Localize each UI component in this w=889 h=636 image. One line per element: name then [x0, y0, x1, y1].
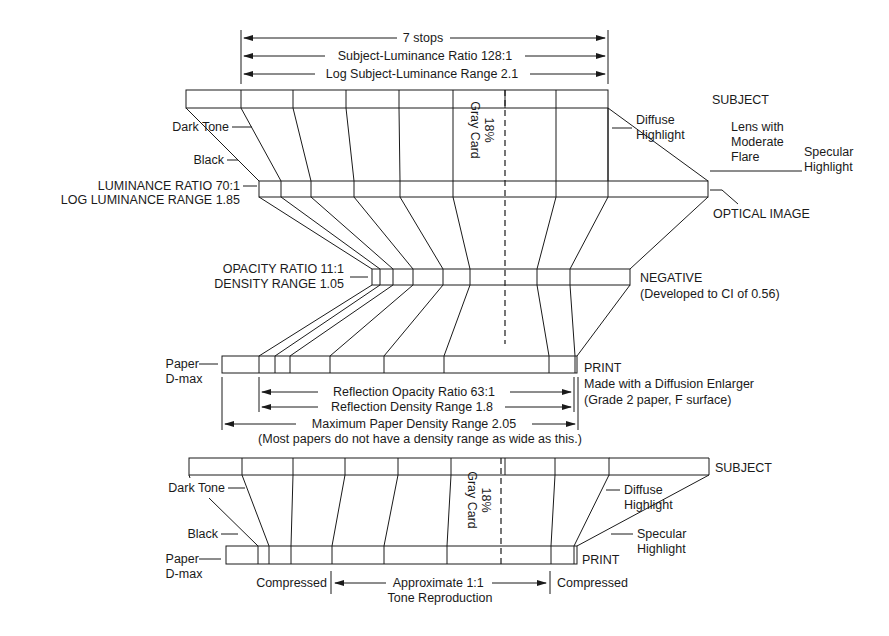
compressed-right-label: Compressed	[557, 576, 628, 590]
bottom-black-label: Black	[187, 527, 218, 541]
black-label: Black	[193, 153, 224, 167]
subject-to-optical-lines	[186, 108, 608, 181]
optical-image-bar	[259, 181, 708, 197]
bottom-gray-card-pct: 18%	[479, 487, 493, 512]
optical-image-label: OPTICAL IMAGE	[713, 207, 810, 221]
tone-reproduction-label: Approximate 1:1 Tone Reproduction	[388, 576, 493, 605]
opacity-ratio-label: OPACITY RATIO 11:1	[223, 262, 344, 276]
max-paper-density-label: Maximum Paper Density Range 2.05	[312, 417, 516, 431]
reflection-density-label: Reflection Density Range 1.8	[331, 400, 493, 414]
tone-reproduction-diagram: 7 stops Subject-Luminance Ratio 128:1 Lo…	[0, 0, 889, 636]
stops-label: 7 stops	[403, 31, 443, 45]
bottom-specular-highlight-label: Specular Highlight	[637, 527, 690, 556]
subject-label: SUBJECT	[712, 93, 769, 107]
bottom-print-label: PRINT	[582, 553, 620, 567]
bottom-diffuse-highlight-label: Diffuse Highlight	[624, 483, 673, 512]
gray-card-label: Gray Card	[468, 101, 482, 159]
bottom-gray-card-label: Gray Card	[465, 471, 479, 529]
diffuse-highlight-label: Diffuse Highlight	[636, 113, 685, 142]
negative-bar	[372, 269, 630, 285]
bottom-subject-bar	[189, 458, 609, 475]
negative-note: (Developed to CI of 0.56)	[640, 287, 780, 301]
negative-label: NEGATIVE	[640, 271, 702, 285]
gray-card-pct: 18%	[482, 117, 496, 142]
print-label: PRINT	[584, 361, 622, 375]
lens-flare-label: Lens with Moderate Flare	[731, 120, 787, 164]
top-subject-bar	[186, 90, 608, 108]
luminance-ratio-label: LUMINANCE RATIO 70:1	[98, 179, 240, 193]
print-note-2: (Grade 2 paper, F surface)	[584, 393, 731, 407]
paper-note: (Most papers do not have a density range…	[258, 432, 582, 446]
print-bar	[222, 356, 577, 373]
bottom-dark-tone-label: Dark Tone	[168, 481, 225, 495]
specular-highlight-label: Specular Highlight	[804, 145, 857, 174]
paper-dmax-label: Paper D-max	[166, 357, 204, 386]
log-subject-luminance-range: Log Subject-Luminance Range 2.1	[326, 67, 519, 81]
dark-tone-label: Dark Tone	[172, 120, 229, 134]
compressed-left-label: Compressed	[256, 576, 327, 590]
bottom-subject-label: SUBJECT	[715, 461, 772, 475]
density-range-label: DENSITY RANGE 1.05	[214, 277, 344, 291]
log-luminance-range-label: LOG LUMINANCE RANGE 1.85	[61, 193, 240, 207]
bottom-paper-dmax-label: Paper D-max	[166, 552, 204, 581]
negative-to-print-lines	[259, 285, 630, 356]
reflection-opacity-label: Reflection Opacity Ratio 63:1	[333, 385, 495, 399]
subject-luminance-ratio: Subject-Luminance Ratio 128:1	[338, 49, 512, 63]
print-note-1: Made with a Diffusion Enlarger	[584, 377, 754, 391]
optical-to-negative-lines	[259, 197, 708, 269]
bottom-print-bar	[226, 546, 577, 564]
